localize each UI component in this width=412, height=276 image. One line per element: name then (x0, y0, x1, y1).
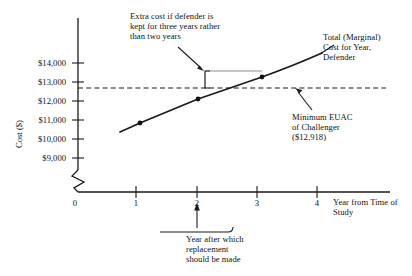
annotation-extra-cost: Extra cost if defender is kept for three… (130, 12, 258, 41)
y-tick-label-12000: $12,000 (18, 96, 66, 106)
data-point-year-1 (138, 121, 143, 126)
x-tick-label-0: 0 (65, 198, 85, 208)
y-tick-label-10000: $10,000 (18, 134, 66, 144)
y-tick-label-14000: $14,000 (18, 58, 66, 68)
y-tick-label-13000: $13,000 (18, 77, 66, 87)
chart-figure: Cost ($) $14,000 $13,000 $12,000 $11,000… (0, 0, 412, 276)
annotation-total-marginal-cost: Total (Marginal) Cost for Year, Defender (323, 33, 409, 62)
x-tick-label-2: 2 (187, 198, 207, 208)
y-tick-label-9000: $9,000 (18, 153, 66, 163)
annotation-replacement-year: Year after which replacement should be m… (186, 235, 286, 264)
minimum-euac-leader-arrow (295, 88, 312, 110)
extra-cost-leader-arrow (178, 47, 204, 71)
x-tick-label-1: 1 (126, 198, 146, 208)
data-point-year-3 (260, 75, 265, 80)
annotation-minimum-euac: Minimum EUAC of Challenger ($12,918) (292, 113, 382, 142)
data-point-year-2 (196, 97, 201, 102)
x-tick-label-4: 4 (307, 198, 327, 208)
y-axis (72, 18, 84, 192)
y-tick-label-11000: $11,000 (18, 115, 66, 125)
x-axis-title: Year from Time of Study (333, 198, 407, 218)
y-axis-break-icon (72, 170, 84, 192)
x-tick-label-3: 3 (247, 198, 267, 208)
